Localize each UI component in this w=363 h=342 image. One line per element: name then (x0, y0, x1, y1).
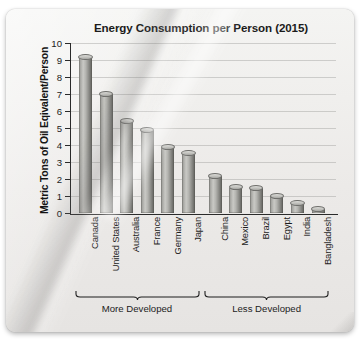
y-tick-label: 0 (40, 208, 62, 219)
bar (312, 209, 325, 213)
more-developed-label: More Developed (75, 303, 200, 314)
bar-chart: Energy Consumption per Person (2015) Met… (6, 9, 354, 332)
x-tick-label: China (219, 217, 230, 241)
bar (100, 94, 113, 213)
gridline (70, 60, 336, 61)
more-developed-brace (75, 291, 200, 300)
x-tick-label: France (151, 217, 162, 245)
y-tick-mark (65, 111, 70, 112)
y-tick-label: 7 (40, 89, 62, 100)
bar (120, 121, 133, 213)
bar (250, 188, 263, 213)
bar-top-ellipse (161, 144, 175, 150)
bar (229, 188, 242, 214)
bar-top-ellipse (311, 206, 325, 212)
y-tick-label: 8 (40, 72, 62, 83)
x-tick-label: Egypt (281, 217, 292, 240)
gridline (70, 43, 336, 44)
x-tick-label: Canada (89, 217, 100, 249)
bar-top-ellipse (270, 193, 284, 199)
y-tick-mark (65, 179, 70, 180)
bar (291, 203, 304, 213)
bar (182, 154, 195, 214)
x-tick-label: India (301, 217, 312, 237)
y-tick-label: 2 (40, 174, 62, 185)
y-tick-mark (65, 145, 70, 146)
y-tick-label: 5 (40, 123, 62, 134)
x-tick-label: Bangladesh (322, 217, 333, 265)
x-tick-label: United States (110, 217, 121, 271)
x-tick-label: Germany (172, 217, 183, 255)
bar-top-ellipse (208, 173, 222, 179)
y-tick-label: 10 (40, 38, 62, 49)
x-axis-line (70, 214, 338, 215)
bar-top-ellipse (290, 200, 304, 206)
y-tick-mark (65, 43, 70, 44)
x-tick-label: Australia (130, 217, 141, 252)
bar-top-ellipse (120, 118, 134, 124)
bar-top-ellipse (249, 185, 263, 191)
bar-top-ellipse (78, 54, 92, 60)
y-tick-label: 1 (40, 191, 62, 202)
x-tick-label: Japan (192, 217, 203, 242)
bar (141, 130, 154, 213)
y-tick-label: 4 (40, 140, 62, 151)
x-tick-label: Mexico (239, 217, 250, 246)
x-tick-label: Brazil (260, 217, 271, 240)
bar (79, 57, 92, 213)
y-tick-label: 3 (40, 157, 62, 168)
bar-top-ellipse (99, 91, 113, 97)
scanned-page: Energy Consumption per Person (2015) Met… (6, 9, 354, 332)
y-tick-mark (65, 196, 70, 197)
bar (209, 176, 222, 213)
bar-top-ellipse (140, 127, 154, 133)
bar-top-ellipse (229, 184, 243, 190)
y-tick-mark (65, 162, 70, 163)
y-tick-mark (65, 77, 70, 78)
less-developed-brace (204, 291, 329, 300)
y-tick-label: 9 (40, 55, 62, 66)
bar (161, 147, 174, 213)
y-tick-mark (65, 60, 70, 61)
y-tick-mark (65, 94, 70, 95)
gridline (70, 77, 336, 78)
bar-top-ellipse (181, 150, 195, 156)
bar (270, 196, 283, 213)
y-tick-mark (65, 213, 70, 214)
less-developed-label: Less Developed (204, 303, 329, 314)
chart-title: Energy Consumption per Person (2015) (56, 21, 346, 34)
y-tick-mark (65, 128, 70, 129)
y-axis-line (70, 43, 71, 214)
y-tick-label: 6 (40, 106, 62, 117)
